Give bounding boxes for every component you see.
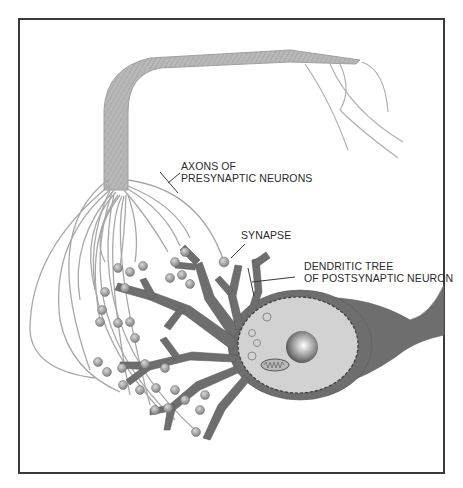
nucleolus	[286, 331, 318, 363]
label-dendritic-line1: DENDRITIC TREE	[304, 260, 453, 272]
neuron-diagram	[0, 0, 463, 488]
label-dendritic-tree: DENDRITIC TREE OF POSTSYNAPTIC NEURON	[304, 260, 453, 284]
label-axons-line2: PRESYNAPTIC NEURONS	[181, 172, 312, 184]
label-synapse: SYNAPSE	[241, 229, 291, 241]
label-axons: AXONS OF PRESYNAPTIC NEURONS	[181, 160, 312, 184]
nucleus	[238, 297, 358, 393]
label-dendritic-line2: OF POSTSYNAPTIC NEURON	[304, 272, 453, 284]
label-axons-line1: AXONS OF	[181, 160, 312, 172]
